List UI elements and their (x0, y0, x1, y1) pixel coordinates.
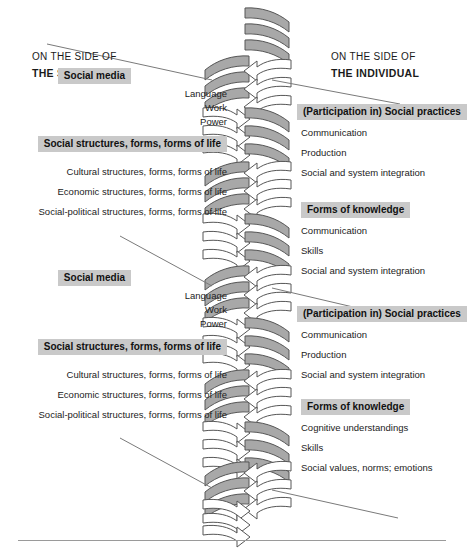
left-item-language-1: Language (185, 88, 227, 99)
right-block-title-forms-of-knowledge-1: Forms of knowledge (301, 202, 410, 218)
leader-line-social-media-3 (120, 438, 212, 488)
right-item-communication-3: Communication (301, 329, 367, 340)
right-item-communication-1: Communication (301, 127, 367, 138)
right-item-production-1: Production (301, 147, 346, 158)
right-item-communication-2: Communication (301, 225, 367, 236)
right-block-title-social-practices-1: (Participation in) Social practices (297, 104, 467, 120)
right-item-integration-2: Social and system integration (301, 265, 425, 276)
left-item-language-2: Language (185, 290, 227, 301)
left-block-title-social-structures-1: Social structures, forms, forms of life (38, 136, 227, 152)
left-block-title-social-media-1: Social media (58, 68, 131, 84)
right-item-cognitive-understandings: Cognitive understandings (301, 422, 408, 433)
right-side-header-line2: THE INDIVIDUAL (331, 67, 419, 79)
right-item-integration-3: Social and system integration (301, 369, 425, 380)
left-item-power-2: Power (200, 318, 227, 329)
left-item-socialpolitical-structures-1: Social-political structures, forms, form… (39, 206, 227, 217)
left-block-title-social-structures-2: Social structures, forms, forms of life (38, 339, 227, 355)
right-block-title-forms-of-knowledge-2: Forms of knowledge (301, 399, 410, 415)
left-item-economic-structures-1: Economic structures, forms, forms of lif… (58, 186, 227, 197)
left-item-work-1: Work (205, 102, 227, 113)
right-item-integration-1: Social and system integration (301, 167, 425, 178)
left-item-power-1: Power (200, 116, 227, 127)
bottom-divider (18, 540, 446, 541)
right-item-skills-1: Skills (301, 245, 323, 256)
right-item-skills-2: Skills (301, 442, 323, 453)
left-item-socialpolitical-structures-2: Social-political structures, forms, form… (39, 409, 227, 420)
left-side-header-line1: ON THE SIDE OF (32, 51, 117, 63)
right-block-title-social-practices-2: (Participation in) Social practices (297, 306, 467, 322)
right-item-production-2: Production (301, 349, 346, 360)
left-item-work-2: Work (205, 304, 227, 315)
right-side-header-line1: ON THE SIDE OF (331, 51, 416, 63)
left-item-cultural-structures-1: Cultural structures, forms, forms of lif… (67, 166, 227, 177)
leader-line-social-media-2 (120, 236, 212, 286)
left-item-cultural-structures-2: Cultural structures, forms, forms of lif… (67, 369, 227, 380)
left-item-economic-structures-2: Economic structures, forms, forms of lif… (58, 389, 227, 400)
left-block-title-social-media-2: Social media (58, 270, 131, 286)
right-item-social-values: Social values, norms; emotions (301, 462, 432, 473)
